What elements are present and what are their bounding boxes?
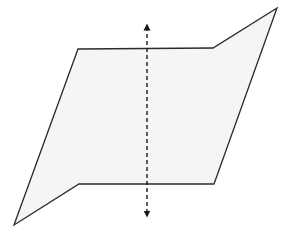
plane-diagram [0,0,284,245]
plane-shape [14,8,277,225]
